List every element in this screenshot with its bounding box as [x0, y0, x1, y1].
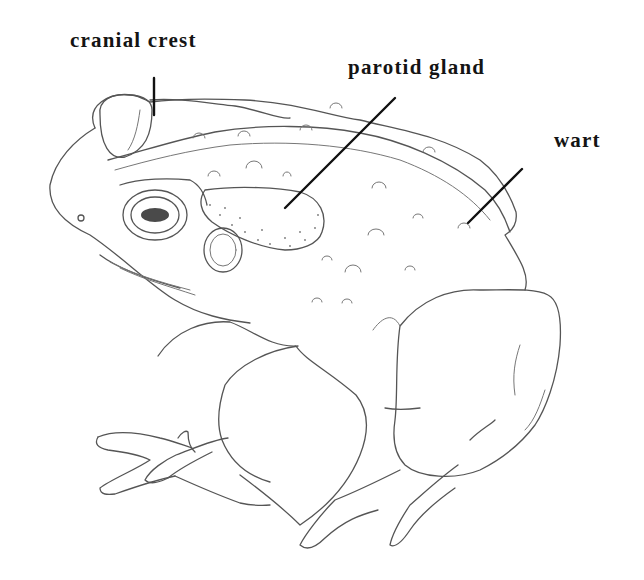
label-parotid-gland: parotid gland	[348, 55, 485, 80]
toad-illustration	[0, 0, 644, 580]
label-cranial-crest: cranial crest	[70, 28, 197, 53]
nostril	[78, 215, 84, 221]
label-wart: wart	[554, 128, 601, 153]
toad-body	[50, 95, 561, 548]
wart-leader	[468, 169, 522, 223]
parotid-gland-leader	[285, 98, 395, 208]
eye	[120, 179, 207, 240]
warts	[193, 103, 470, 303]
toad-diagram: cranial crest parotid gland wart	[0, 0, 644, 580]
parotid-gland-shape	[201, 187, 324, 250]
